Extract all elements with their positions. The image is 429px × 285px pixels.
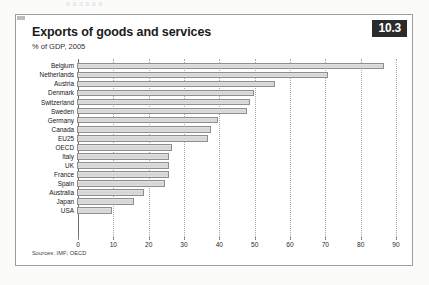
bar-track [77, 134, 412, 143]
tick-label: 10 [110, 241, 117, 248]
category-label: Belgium [16, 63, 77, 69]
bar [77, 99, 250, 106]
bar [77, 90, 254, 97]
category-label: EU25 [16, 136, 77, 142]
category-label: Australia [16, 190, 77, 196]
page-bleed-text: a a a a a a [66, 0, 366, 10]
category-label: Italy [16, 154, 77, 160]
category-label: Germany [16, 118, 77, 124]
tick-label: 70 [322, 241, 329, 248]
bar [77, 171, 169, 178]
bar-row: USA [16, 207, 412, 216]
bar [77, 117, 218, 124]
bar [77, 81, 275, 88]
category-label: USA [16, 208, 77, 214]
bar-row: Netherlands [16, 71, 412, 80]
bar [77, 162, 169, 169]
bar-track [77, 89, 412, 98]
bar [77, 180, 165, 187]
tick-mark [396, 237, 397, 240]
bar-row: UK [16, 162, 412, 171]
category-label: Spain [16, 181, 77, 187]
bar [77, 198, 134, 205]
bar [77, 63, 384, 70]
bar-track [77, 171, 412, 180]
bar-row: Sweden [16, 107, 412, 116]
bar-row: Japan [16, 198, 412, 207]
bar-row: EU25 [16, 134, 412, 143]
tick-label: 30 [180, 241, 187, 248]
category-label: Canada [16, 127, 77, 133]
category-label: Switzerland [16, 100, 77, 106]
tick-mark [361, 237, 362, 240]
category-label: France [16, 172, 77, 178]
bar-track [77, 152, 412, 161]
figure-number-badge: 10.3 [372, 20, 407, 37]
bar-track [77, 107, 412, 116]
bar-track [77, 80, 412, 89]
chart-subtitle: % of GDP, 2005 [32, 42, 85, 51]
bar-track [77, 116, 412, 125]
bar-row: Spain [16, 180, 412, 189]
tick-mark [325, 237, 326, 240]
scanned-page: a a a a a a Exports of goods and service… [0, 0, 429, 285]
tick-label: 90 [392, 241, 399, 248]
tick-mark [184, 237, 185, 240]
bar [77, 135, 208, 142]
bar [77, 108, 247, 115]
bar-track [77, 143, 412, 152]
bar-track [77, 98, 412, 107]
bar [77, 72, 328, 79]
bar-track [77, 62, 412, 71]
tick-label: 40 [216, 241, 223, 248]
tick-mark [113, 237, 114, 240]
category-label: Denmark [16, 90, 77, 96]
bar-track [77, 125, 412, 134]
bar-row: Austria [16, 80, 412, 89]
tick-mark [255, 237, 256, 240]
bar-track [77, 207, 412, 216]
category-label: UK [16, 163, 77, 169]
tick-label: 50 [251, 241, 258, 248]
chart-title: Exports of goods and services [32, 25, 211, 39]
tick-label: 80 [357, 241, 364, 248]
tick-mark [219, 237, 220, 240]
bar-row: Canada [16, 125, 412, 134]
bar-track [77, 189, 412, 198]
bar [77, 207, 112, 214]
plot-area: BelgiumNetherlandsAustriaDenmarkSwitzerl… [16, 59, 412, 259]
bar-row: Germany [16, 116, 412, 125]
bar-row: Switzerland [16, 98, 412, 107]
bar-row: France [16, 171, 412, 180]
bar [77, 126, 211, 133]
bar-track [77, 162, 412, 171]
bar-track [77, 71, 412, 80]
chart-panel: Exports of goods and services % of GDP, … [15, 14, 413, 266]
tick-label: 0 [76, 241, 80, 248]
bar-row: Italy [16, 152, 412, 161]
bar-row: OECD [16, 143, 412, 152]
category-label: Sweden [16, 109, 77, 115]
bar [77, 144, 172, 151]
bar-row: Belgium [16, 62, 412, 71]
category-label: Netherlands [16, 72, 77, 78]
bar-row: Australia [16, 189, 412, 198]
tick-label: 60 [286, 241, 293, 248]
bar-row: Denmark [16, 89, 412, 98]
bar-track [77, 180, 412, 189]
bar [77, 153, 169, 160]
tick-mark [78, 237, 79, 240]
category-label: Austria [16, 81, 77, 87]
source-note: Sources: IMF; OECD [32, 250, 86, 256]
tick-mark [290, 237, 291, 240]
bar [77, 189, 144, 196]
tick-mark [149, 237, 150, 240]
category-label: OECD [16, 145, 77, 151]
bar-track [77, 198, 412, 207]
tick-label: 20 [145, 241, 152, 248]
category-label: Japan [16, 199, 77, 205]
bar-rows: BelgiumNetherlandsAustriaDenmarkSwitzerl… [16, 62, 412, 216]
